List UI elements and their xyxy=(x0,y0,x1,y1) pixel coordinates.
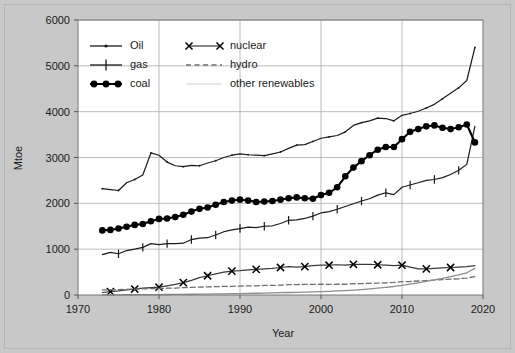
data-point-marker xyxy=(439,124,446,131)
data-point-marker xyxy=(118,190,120,192)
x-axis-title: Year xyxy=(272,327,295,339)
data-point-marker xyxy=(399,136,406,143)
data-point-marker xyxy=(156,216,163,223)
data-point-marker xyxy=(409,113,411,115)
data-point-marker xyxy=(199,165,201,167)
data-point-marker xyxy=(182,166,184,168)
legend-label-gas: gas xyxy=(130,58,148,70)
data-point-marker xyxy=(383,144,390,151)
data-point-marker xyxy=(221,199,228,206)
data-point-marker xyxy=(247,154,249,156)
data-point-marker xyxy=(464,121,471,128)
legend-marker-oil-dot-icon xyxy=(104,44,107,47)
data-point-marker xyxy=(374,146,381,153)
y-tick-label: 0 xyxy=(64,289,70,301)
legend-label-hydro: hydro xyxy=(230,58,258,70)
data-point-marker xyxy=(447,126,454,133)
data-point-marker xyxy=(196,206,203,213)
data-point-marker xyxy=(391,144,398,151)
legend-label-oil: Oil xyxy=(130,39,143,51)
legend-label-nuclear: nuclear xyxy=(230,39,266,51)
data-point-marker xyxy=(423,123,430,130)
data-point-marker xyxy=(123,223,130,230)
data-point-marker xyxy=(263,155,265,157)
data-point-marker xyxy=(140,221,147,228)
data-point-marker xyxy=(361,122,363,124)
y-tick-label: 2000 xyxy=(46,197,70,209)
x-tick-label: 1970 xyxy=(66,303,90,315)
legend-marker-coal-circle-icon xyxy=(91,81,98,88)
data-point-marker xyxy=(312,141,314,143)
data-point-marker xyxy=(285,195,292,202)
legend-marker-coal-circle-icon xyxy=(103,81,110,88)
data-point-marker xyxy=(204,204,211,211)
data-point-marker xyxy=(366,152,373,159)
line-chart: 0100020003000400050006000197019801990200… xyxy=(0,0,515,353)
data-point-marker xyxy=(269,198,276,205)
data-point-marker xyxy=(253,199,260,206)
x-tick-label: 1990 xyxy=(228,303,252,315)
y-tick-label: 1000 xyxy=(46,243,70,255)
data-point-marker xyxy=(261,198,268,205)
data-point-marker xyxy=(150,152,152,154)
data-point-marker xyxy=(431,122,438,129)
data-point-marker xyxy=(277,196,284,203)
data-point-marker xyxy=(415,126,422,133)
data-point-marker xyxy=(334,184,341,191)
data-point-marker xyxy=(472,139,479,146)
data-point-marker xyxy=(425,107,427,109)
y-tick-label: 6000 xyxy=(46,14,70,26)
data-point-marker xyxy=(442,98,444,100)
x-tick-label: 1980 xyxy=(147,303,171,315)
y-tick-label: 3000 xyxy=(46,152,70,164)
data-point-marker xyxy=(237,196,244,203)
data-point-marker xyxy=(328,136,330,138)
data-point-marker xyxy=(407,129,414,136)
data-point-marker xyxy=(302,195,309,202)
data-point-marker xyxy=(131,222,138,229)
data-point-marker xyxy=(134,179,136,181)
y-tick-label: 4000 xyxy=(46,106,70,118)
data-point-marker xyxy=(180,211,187,218)
legend-marker-coal-circle-icon xyxy=(115,81,122,88)
data-point-marker xyxy=(350,164,357,171)
x-axis-ticks: 197019801990200020102020 xyxy=(66,295,495,315)
data-point-marker xyxy=(166,161,168,163)
data-point-marker xyxy=(280,151,282,153)
x-tick-label: 2010 xyxy=(390,303,414,315)
data-point-marker xyxy=(358,158,365,165)
x-tick-label: 2000 xyxy=(309,303,333,315)
chart-figure: 0100020003000400050006000197019801990200… xyxy=(0,0,515,353)
data-point-marker xyxy=(310,195,317,202)
data-point-marker xyxy=(458,87,460,89)
data-point-marker xyxy=(188,208,195,215)
data-point-marker xyxy=(377,117,379,119)
data-point-marker xyxy=(474,47,476,49)
data-point-marker xyxy=(229,197,236,204)
y-axis-ticks: 0100020003000400050006000 xyxy=(46,14,78,301)
data-point-marker xyxy=(393,120,395,122)
data-point-marker xyxy=(101,188,103,190)
y-tick-label: 5000 xyxy=(46,60,70,72)
x-tick-label: 2020 xyxy=(471,303,495,315)
data-point-marker xyxy=(148,218,155,225)
data-point-marker xyxy=(172,214,179,221)
data-point-marker xyxy=(231,154,233,156)
data-point-marker xyxy=(318,192,325,199)
data-point-marker xyxy=(296,144,298,146)
data-point-marker xyxy=(215,160,217,162)
y-axis-title: Mtoe xyxy=(12,146,24,170)
legend-label-other-renewables: other renewables xyxy=(230,77,315,89)
data-point-marker xyxy=(107,227,114,234)
data-point-marker xyxy=(342,173,349,180)
data-point-marker xyxy=(245,197,252,204)
data-point-marker xyxy=(99,227,106,234)
data-point-marker xyxy=(115,225,122,232)
legend-label-coal: coal xyxy=(130,77,150,89)
data-point-marker xyxy=(455,124,462,131)
data-point-marker xyxy=(293,194,300,201)
data-point-marker xyxy=(344,131,346,133)
data-point-marker xyxy=(164,215,171,222)
data-point-marker xyxy=(212,201,219,208)
data-point-marker xyxy=(326,189,333,196)
